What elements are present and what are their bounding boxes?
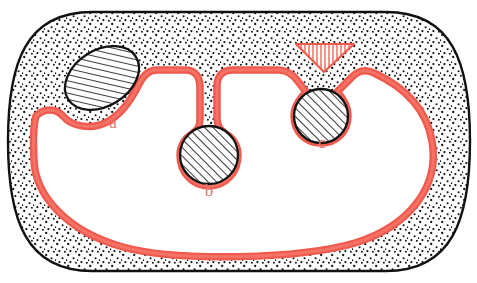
label-c: c: [318, 133, 326, 152]
cross-section-diagram: a b c: [0, 0, 477, 283]
figure-root: a b c: [0, 0, 477, 283]
inclusion-b-body: [180, 126, 238, 184]
label-b: b: [205, 181, 214, 200]
label-a: a: [109, 113, 117, 132]
circle-inclusion-b: [180, 126, 238, 184]
